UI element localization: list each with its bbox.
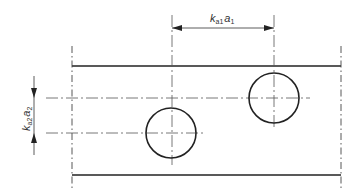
plate-drawing: ka1a1 ka2a2 — [0, 0, 361, 194]
dimension-horizontal-label: ka1a1 — [210, 12, 234, 25]
dimension-vertical-label: ka2a2 — [20, 107, 33, 131]
